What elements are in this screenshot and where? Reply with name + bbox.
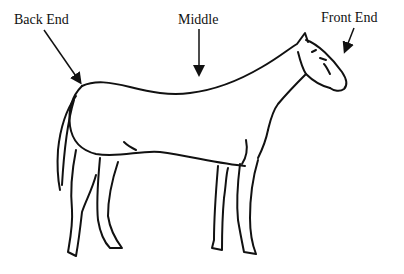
horse-outline (58, 33, 347, 256)
arrow-front-end (345, 28, 354, 51)
arrow-back-end (44, 30, 80, 82)
horse-diagram (0, 0, 404, 274)
